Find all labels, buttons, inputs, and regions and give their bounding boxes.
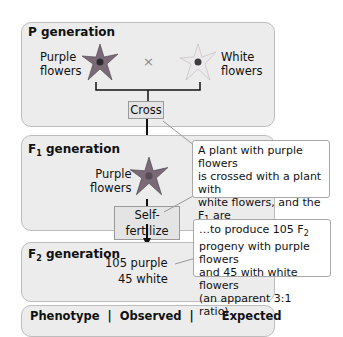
callout2-line2: progeny with purple flowers (199, 240, 325, 266)
callout2-line1-sub: 2 (304, 229, 309, 238)
callout2-line3: and 45 with white flowers (199, 266, 325, 292)
callout1-line2: is crossed with a plant with (198, 170, 324, 196)
callout1-line1: A plant with purple flowers (198, 144, 324, 170)
callout-ratio-description: …to produce 105 F2 progeny with purple f… (193, 219, 331, 277)
callout-cross-description: A plant with purple flowers is crossed w… (192, 140, 330, 198)
callout2-line1: …to produce 105 F2 (199, 223, 325, 240)
callout2-line4: (an apparent 3:1 ratio). (199, 292, 325, 318)
callout2-line1a: …to produce 105 F (199, 223, 304, 236)
